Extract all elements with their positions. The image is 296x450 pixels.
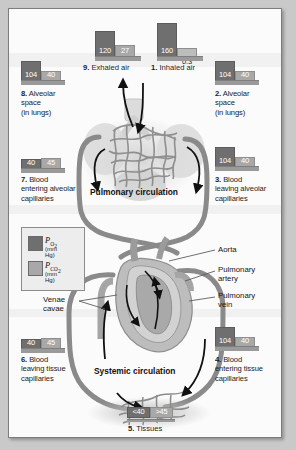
bar-shelf-exhaled-air [95, 56, 141, 61]
caption-line1-blood-leaving-tissue-capillaries: 6. Blood [21, 355, 101, 364]
caption-exhaled-air: 9. Exhaled air [83, 63, 129, 72]
caption-alveolar-space-right: 2. Alveolar space (in lungs) [215, 89, 282, 117]
caption-number-blood-leaving-alveolar-capillaries: 3. [215, 175, 221, 184]
caption-line1-text-blood-leaving-tissue-capillaries: Blood [29, 355, 48, 364]
bars-blood-leaving-alveolar-capillaries: 104 40 [215, 143, 259, 171]
figure-root: 120 27 9. Exhaled air 160 0.3 1. Inhaled… [0, 0, 296, 450]
label-aorta: Aorta [218, 245, 237, 254]
caption-tissues: 5. Tissues [128, 424, 162, 433]
bar-shelf-tissues [127, 419, 175, 422]
caption-number-inhaled-air: 1. [151, 63, 157, 72]
label-pulmonary-artery-line2: artery [218, 274, 276, 283]
caption-text-tissues: Tissues [136, 424, 162, 433]
label-venae-cavae-line2: cavae [43, 304, 89, 313]
bar-shelf-blood-leaving-alveolar-capillaries [215, 166, 259, 171]
bar-shelf-alveolar-space-right [215, 80, 259, 85]
caption-text-exhaled-air: Exhaled air [91, 63, 129, 72]
bar-pco2-value-blood-entering-alveolar-capillaries: 45 [42, 158, 60, 167]
legend-unit-po2: (mm Hg) [45, 246, 57, 258]
caption-blood-entering-tissue-capillaries: 4. Blood entering tissue capillaries [215, 355, 282, 383]
bars-alveolar-space-right: 104 40 [215, 57, 259, 85]
bar-po2-value-exhaled-air: 120 [96, 46, 114, 55]
caption-number-blood-entering-tissue-capillaries: 4. [215, 355, 221, 364]
legend-box: PO2 (mm Hg) PCO2 (mm Hg) [21, 227, 85, 291]
caption-number-alveolar-space-right: 2. [215, 89, 221, 98]
caption-text-inhaled-air: Inhaled air [159, 63, 194, 72]
bar-pco2-value-tissues: >45 [151, 407, 172, 416]
bar-po2-value-blood-entering-tissue-capillaries: 104 [216, 336, 234, 345]
caption-number-blood-leaving-tissue-capillaries: 6. [21, 355, 27, 364]
bar-pco2-value-blood-leaving-tissue-capillaries: 45 [42, 338, 60, 347]
caption-blood-leaving-tissue-capillaries: 6. Blood leaving tissue capillaries [21, 355, 101, 383]
bar-po2-alveolar-space-left: 104 [21, 61, 41, 81]
caption-line3-blood-leaving-alveolar-capillaries: capillaries [215, 194, 282, 203]
bar-po2-value-blood-leaving-alveolar-capillaries: 104 [216, 156, 234, 165]
caption-line1-blood-entering-alveolar-capillaries: 7. Blood [21, 175, 101, 184]
label-venae-cavae: Venae cavae [43, 295, 89, 314]
caption-line3-blood-entering-alveolar-capillaries: capillaries [21, 194, 101, 203]
caption-number-alveolar-space-left: 8. [21, 89, 27, 98]
caption-line1-text-blood-leaving-alveolar-capillaries: Blood [223, 175, 242, 184]
bar-po2-value-tissues: <40 [128, 407, 149, 416]
bars-blood-leaving-tissue-capillaries: 40 45 [21, 335, 65, 353]
caption-alveolar-space-left: 8. Alveolar space (in lungs) [21, 89, 101, 117]
bar-shelf-blood-entering-tissue-capillaries [215, 346, 259, 351]
label-venae-cavae-line1: Venae [43, 295, 89, 304]
label-pulmonary-artery-line1: Pulmonary [218, 265, 276, 274]
bar-pco2-value-blood-entering-tissue-capillaries: 40 [236, 336, 254, 345]
caption-line1-alveolar-space-right: 2. Alveolar [215, 89, 282, 98]
caption-line1-text-alveolar-space-left: Alveolar [29, 89, 56, 98]
bar-po2-tissues: <40 [127, 407, 150, 418]
bars-alveolar-space-left: 104 40 [21, 57, 65, 85]
bar-po2-exhaled-air: 120 [95, 31, 115, 57]
bar-pco2-value-alveolar-space-left: 40 [42, 70, 60, 79]
caption-line1-blood-leaving-alveolar-capillaries: 3. Blood [215, 175, 282, 184]
bar-pco2-value-exhaled-air: 27 [116, 46, 134, 55]
pulmonary-circulation-title: Pulmonary circulation [90, 187, 178, 197]
bars-blood-entering-tissue-capillaries: 104 40 [215, 323, 259, 351]
caption-line3-alveolar-space-left: (in lungs) [21, 108, 101, 117]
caption-line2-alveolar-space-right: space [215, 98, 282, 107]
heart-illustration [101, 238, 192, 352]
bar-shelf-blood-entering-alveolar-capillaries [21, 168, 65, 173]
caption-line2-blood-leaving-alveolar-capillaries: leaving alveolar [215, 184, 282, 193]
label-pulmonary-vein-line2: vein [218, 300, 276, 309]
caption-inhaled-air: 1. Inhaled air [151, 63, 195, 72]
caption-blood-entering-alveolar-capillaries: 7. Blood entering alveolar capillaries [21, 175, 101, 203]
pco2-swatch-icon [28, 261, 43, 276]
bar-po2-value-inhaled-air: 160 [158, 46, 176, 55]
caption-line1-text-blood-entering-alveolar-capillaries: Blood [29, 175, 48, 184]
bar-pco2-tissues: >45 [150, 407, 173, 418]
label-pulmonary-vein-line1: Pulmonary [218, 291, 276, 300]
bar-po2-inhaled-air: 160 [157, 23, 177, 57]
caption-line2-blood-entering-tissue-capillaries: entering tissue [215, 364, 282, 373]
caption-line2-alveolar-space-left: space [21, 98, 101, 107]
caption-line2-blood-leaving-tissue-capillaries: leaving tissue [21, 364, 101, 373]
caption-line2-blood-entering-alveolar-capillaries: entering alveolar [21, 184, 101, 193]
label-pulmonary-vein: Pulmonary vein [218, 291, 276, 310]
bar-po2-value-alveolar-space-left: 104 [22, 70, 40, 79]
caption-line1-alveolar-space-left: 8. Alveolar [21, 89, 101, 98]
bar-po2-value-blood-leaving-tissue-capillaries: 40 [22, 338, 40, 347]
bars-tissues: <40 >45 [127, 407, 175, 422]
caption-number-exhaled-air: 9. [83, 63, 89, 72]
caption-line3-blood-leaving-tissue-capillaries: capillaries [21, 374, 101, 383]
systemic-circulation-title: Systemic circulation [94, 366, 175, 376]
bar-pco2-value-alveolar-space-right: 40 [236, 70, 254, 79]
caption-line1-blood-entering-tissue-capillaries: 4. Blood [215, 355, 282, 364]
bar-shelf-inhaled-air [157, 56, 203, 61]
caption-number-tissues: 5. [128, 424, 134, 433]
bars-blood-entering-alveolar-capillaries: 40 45 [21, 155, 65, 173]
bars-inhaled-air: 160 0.3 [157, 19, 203, 61]
bar-po2-value-alveolar-space-right: 104 [216, 70, 234, 79]
bar-shelf-alveolar-space-left [21, 80, 65, 85]
po2-swatch-icon [28, 236, 43, 251]
bars-exhaled-air: 120 27 [95, 27, 141, 61]
legend-unit-pco2: (mm Hg) [45, 271, 57, 283]
diagram-page: 120 27 9. Exhaled air 160 0.3 1. Inhaled… [8, 8, 282, 438]
caption-line3-alveolar-space-right: (in lungs) [215, 108, 282, 117]
caption-line1-text-alveolar-space-right: Alveolar [223, 89, 250, 98]
caption-line3-blood-entering-tissue-capillaries: capillaries [215, 374, 282, 383]
caption-blood-leaving-alveolar-capillaries: 3. Blood leaving alveolar capillaries [215, 175, 282, 203]
bar-po2-blood-entering-tissue-capillaries: 104 [215, 327, 235, 347]
